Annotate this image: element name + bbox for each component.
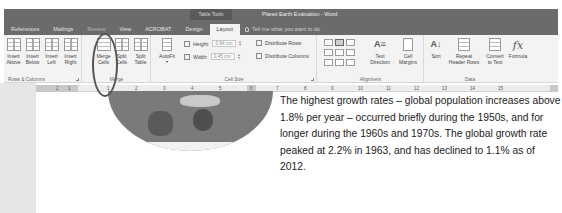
insert-below-button[interactable]: Insert Below [24, 38, 41, 65]
table-tools-label: Table Tools [190, 9, 232, 20]
align-center[interactable] [335, 49, 344, 56]
width-input[interactable]: 0.45 cm [211, 53, 235, 60]
align-center-right[interactable] [346, 49, 355, 56]
height-icon [184, 41, 190, 47]
autofit-icon [162, 38, 172, 51]
align-bottom-left[interactable] [324, 59, 333, 66]
height-input[interactable]: 0.64 cm [212, 40, 236, 47]
ribbon-layout: Insert Above Insert Below Insert Left In… [4, 35, 558, 83]
formula-button[interactable]: fx Formula [507, 38, 529, 59]
ruler-right-margin [550, 85, 558, 92]
distribute-rows-button[interactable]: Distribute Rows [256, 40, 301, 46]
height-label: Height: [193, 41, 209, 47]
tab-design[interactable]: Design [178, 24, 209, 35]
insert-above-button[interactable]: Insert Above [5, 38, 22, 65]
formula-fx-icon: fx [507, 38, 529, 53]
height-spinner[interactable]: ▴▾ [239, 40, 242, 47]
align-center-left[interactable] [324, 49, 333, 56]
split-table-icon [134, 38, 148, 51]
tell-me-box[interactable]: Tell me what you want to do [240, 24, 320, 35]
align-top-center[interactable] [335, 39, 344, 46]
width-label: Width: [193, 54, 208, 60]
split-cells-icon [115, 38, 129, 51]
height-row: Height: 0.64 cm ▴▾ [184, 40, 242, 47]
merge-cells-highlight-circle [92, 33, 118, 97]
tab-layout[interactable]: Layout [210, 24, 241, 35]
cell-margins-button[interactable]: Cell Margins [396, 38, 420, 65]
sort-icon: A↓ [428, 38, 444, 53]
group-label-cell-size: Cell Size [152, 77, 316, 82]
text-direction-button[interactable]: A≡ Text Direction [368, 38, 392, 65]
group-cell-size: AutoFit ▾ Height: 0.64 cm ▴▾ Width: 0.45… [152, 35, 317, 83]
distribute-columns-button[interactable]: Distribute Columns [256, 53, 309, 59]
width-row: Width: 0.45 cm ▴▾ [184, 53, 241, 60]
cell-size-launcher[interactable] [311, 78, 314, 81]
distribute-rows-icon [256, 40, 262, 46]
paragraph-growth-rates[interactable]: The highest growth rates – global popula… [280, 93, 562, 176]
align-top-right[interactable] [346, 39, 355, 46]
document-title: Planet Earth Evaluation - Word [262, 10, 337, 19]
insert-left-button[interactable]: Insert Left [43, 38, 60, 65]
tab-view[interactable]: View [112, 24, 138, 35]
text-direction-icon: A≡ [368, 38, 392, 53]
split-table-button[interactable]: Split Table [132, 38, 149, 65]
distribute-columns-icon [256, 53, 262, 59]
group-label-rows-columns: Rows & Columns [4, 77, 81, 82]
repeat-header-icon [458, 38, 470, 51]
tab-acrobat[interactable]: ACROBAT [138, 24, 178, 35]
group-label-alignment: Alignment [318, 77, 423, 82]
group-rows-columns: Insert Above Insert Below Insert Left In… [4, 35, 82, 83]
cell-margins-icon [403, 38, 413, 51]
align-top-left[interactable] [324, 39, 333, 46]
insert-right-button[interactable]: Insert Right [62, 38, 79, 65]
convert-to-text-icon [489, 38, 501, 51]
group-alignment: A≡ Text Direction Cell Margins Alignment [318, 35, 424, 83]
width-spinner[interactable]: ▴▾ [238, 53, 241, 60]
lightbulb-icon [245, 27, 249, 32]
alignment-grid [324, 39, 355, 66]
tab-mailings[interactable]: Mailings [46, 24, 80, 35]
width-icon [184, 54, 190, 60]
autofit-button[interactable]: AutoFit ▾ [156, 38, 178, 65]
tell-me-placeholder: Tell me what you want to do [252, 24, 320, 35]
group-data: A↓ Sort Repeat Header Rows Convert to Te… [425, 35, 525, 83]
align-bottom-right[interactable] [346, 59, 355, 66]
insert-below-icon [26, 38, 40, 51]
tab-references[interactable]: References [4, 24, 46, 35]
sort-button[interactable]: A↓ Sort [428, 38, 444, 59]
convert-to-text-button[interactable]: Convert to Text [483, 38, 507, 65]
document-page[interactable]: The highest growth rates – global popula… [36, 93, 558, 213]
rows-columns-launcher[interactable] [76, 78, 79, 81]
insert-right-icon [64, 38, 78, 51]
insert-above-icon [7, 38, 21, 51]
ribbon-tabs: References Mailings Review View ACROBAT … [4, 24, 320, 35]
repeat-header-rows-button[interactable]: Repeat Header Rows [447, 38, 481, 65]
group-label-data: Data [425, 77, 515, 82]
word-window: Table Tools Planet Earth Evaluation - Wo… [0, 0, 562, 213]
title-bar-top [0, 0, 562, 9]
left-pane-gray [0, 83, 36, 213]
align-bottom-center[interactable] [335, 59, 344, 66]
world-map-image[interactable] [108, 91, 273, 151]
insert-left-icon [45, 38, 59, 51]
